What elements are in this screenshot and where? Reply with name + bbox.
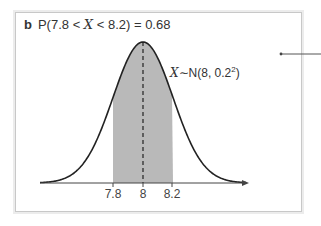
annotation-close: ): [236, 66, 240, 80]
tick-label-7.8: 7.8: [105, 187, 122, 201]
title-prefix: P(7.8 <: [38, 17, 84, 32]
panel-tag: b: [24, 17, 32, 32]
tick-label-8: 8: [140, 187, 147, 201]
x-axis-arrow-icon: [242, 180, 249, 186]
annotation-variable: X: [170, 66, 179, 80]
pointer-dot-icon: [280, 53, 283, 56]
panel-title: bP(7.8 < X < 8.2) = 0.68: [24, 17, 170, 32]
title-suffix: < 8.2) = 0.68: [93, 17, 170, 32]
distribution-label: X∼N(8, 0.22): [170, 65, 240, 80]
normal-curve-chart: [0, 0, 321, 226]
annotation-text: ∼N(8, 0.2: [179, 66, 232, 80]
title-variable: X: [84, 17, 93, 32]
tick-label-8.2: 8.2: [164, 187, 181, 201]
